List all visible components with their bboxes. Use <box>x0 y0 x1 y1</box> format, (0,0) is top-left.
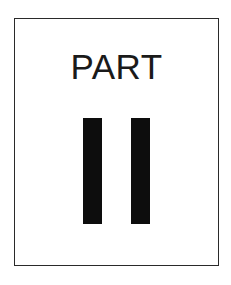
page-frame-border: PART II <box>14 18 219 266</box>
part-numeral-label: II <box>116 118 117 119</box>
part-divider-page: PART II <box>0 0 231 285</box>
part-numeral: II <box>15 118 218 224</box>
numeral-stroke-1-bar <box>83 118 102 224</box>
part-title: PART <box>15 49 218 84</box>
numeral-stroke-2-bar <box>131 118 150 224</box>
